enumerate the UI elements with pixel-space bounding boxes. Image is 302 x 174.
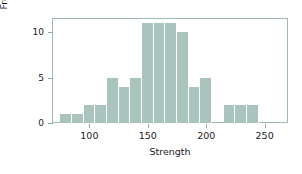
histogram-bar [235,105,247,123]
y-axis-tick [48,123,53,124]
y-axis-tick [48,78,53,79]
histogram-bar [119,87,131,123]
x-axis-tick-label: 150 [139,130,157,141]
histogram-bar [154,23,166,123]
y-axis-tick-label: 5 [38,73,44,83]
histogram-bar [72,114,84,123]
x-axis-tick [265,124,266,128]
x-axis-tick [148,124,149,128]
y-axis-tick [48,32,53,33]
plot-area [52,18,288,123]
histogram-bar [177,32,189,123]
x-axis-title: Strength [149,146,190,157]
y-axis-tick-label: 0 [38,118,44,128]
y-axis: 0510 [46,14,53,127]
histogram-bar [247,105,259,123]
histogram-bar [84,105,96,123]
x-axis-tick-label: 200 [197,130,215,141]
x-axis-tick-label: 100 [80,130,98,141]
histogram-bar [165,23,177,123]
histogram-bar [130,78,142,123]
y-axis-title: Frequency [0,0,9,28]
x-axis-tick-label: 250 [256,130,274,141]
histogram-figure: 0510 Frequency Strength 100150200250 [0,0,302,174]
histogram-bar [142,23,154,123]
histogram-bar [200,78,212,123]
histogram-bar [95,105,107,123]
histogram-bar [107,78,119,123]
x-axis-tick [89,124,90,128]
histogram-bar [189,87,201,123]
y-axis-tick-label: 10 [33,27,44,37]
histogram-bar [60,114,72,123]
x-axis-tick [206,124,207,128]
histogram-bar [224,105,236,123]
